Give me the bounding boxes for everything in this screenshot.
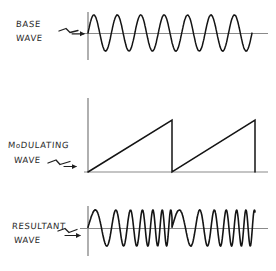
squiggle-arrow-icon [48, 160, 70, 165]
modulating-label-rest: DULATING [20, 140, 69, 150]
base-wave-label-line2: WAVE [16, 33, 43, 43]
arrow-head [80, 31, 85, 36]
arrow-modulating-wave [48, 160, 77, 169]
base-wave-panel [80, 12, 268, 60]
modulating-wave-label-line1: MoDULATING [8, 140, 70, 150]
modulating-wave-curve [88, 120, 255, 172]
resultant-wave-label-line2: WAVE [14, 235, 41, 245]
resultant-wave-label-line1: RESULTANT [12, 221, 66, 231]
resultant-wave-panel [80, 206, 268, 256]
arrow-head [76, 233, 81, 238]
arrow-base-wave [59, 29, 85, 37]
modulating-wave-label-line2: WAVE [14, 155, 41, 165]
arrow-head [72, 164, 77, 169]
squiggle-arrow-icon [59, 29, 78, 33]
modulating-wave-panel [84, 98, 268, 172]
base-wave-label-line1: BASE [16, 19, 42, 29]
